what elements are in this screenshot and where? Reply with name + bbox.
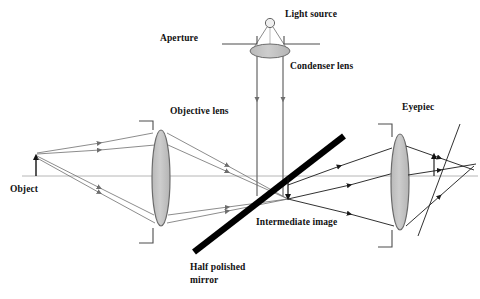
label-object: Object [10,184,39,194]
label-objective-lens: Objective lens [170,106,229,116]
ray-object-to-objective-bottom [37,158,155,223]
objective-mount-bottom [139,228,153,243]
ray-eyepiece-chief [418,124,460,236]
ray-objective-to-image-lower [168,199,288,215]
ray-object-to-objective-upper [37,145,155,154]
label-intermediate-image: Intermediate image [256,217,337,227]
eyepiece-mount-top [378,124,392,137]
optics-diagram-canvas: Light source Aperture Condenser lens Obj… [0,0,480,299]
label-light-source: Light source [285,9,337,19]
label-eyepiece: Eyepiec [402,102,434,112]
half-polished-mirror [194,136,344,252]
condenser-lens [250,44,290,58]
ray-image-to-eyepiece-upper [288,173,394,199]
label-half-polished-mirror-line2: mirror [190,275,219,285]
objective-lens [152,130,170,226]
label-condenser-lens: Condenser lens [290,61,353,71]
label-aperture: Aperture [160,33,198,43]
optics-diagram-root: Light source Aperture Condenser lens Obj… [0,0,480,299]
label-half-polished-mirror-line1: Half polished [190,262,246,272]
light-source-icon [265,18,274,27]
eyepiece-mount-bottom [378,230,392,247]
objective-mount-top [139,121,153,130]
ray-object-to-objective-lower [37,156,154,215]
ray-objective-to-image-top [167,133,288,199]
ray-eyepiece-exit-lower [406,166,474,226]
aperture-right-blade [284,36,320,44]
eyepiece-lens [391,134,409,230]
aperture-left-blade [222,36,257,44]
